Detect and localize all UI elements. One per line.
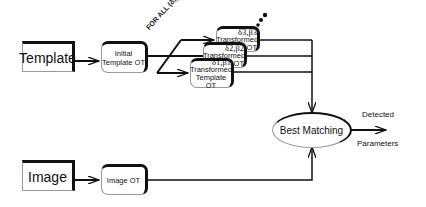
transformed-2-line2: OT xyxy=(234,60,244,68)
best-matching-node: Best Matching xyxy=(272,112,352,148)
ellipsis-dot xyxy=(263,13,267,17)
initial-template-ot-box: Initial Template OT xyxy=(101,41,148,73)
image-input-box: Image xyxy=(22,160,75,191)
template-input-box: Template xyxy=(22,41,75,72)
output-label-line2: Parameters xyxy=(357,139,398,148)
image-label: Image xyxy=(28,169,67,185)
transformed-3-line2: OT xyxy=(247,44,257,52)
image-ot-label: Image OT xyxy=(107,176,140,185)
template-label: Template xyxy=(19,50,76,66)
image-ot-box: Image OT xyxy=(101,164,148,195)
initial-ot-line1: Initial xyxy=(115,49,133,58)
ellipsis-dot xyxy=(259,18,263,22)
best-matching-label: Best Matching xyxy=(280,125,343,136)
transformed-ot-box-1: δ1,β1 Transformed Template OT xyxy=(190,58,234,88)
arrow-to-best-matching-bottom xyxy=(148,147,312,180)
initial-ot-line2: Template OT xyxy=(102,58,145,67)
transformed-1-line2: Template OT xyxy=(191,74,231,90)
output-label-line1: Detected xyxy=(362,110,394,119)
